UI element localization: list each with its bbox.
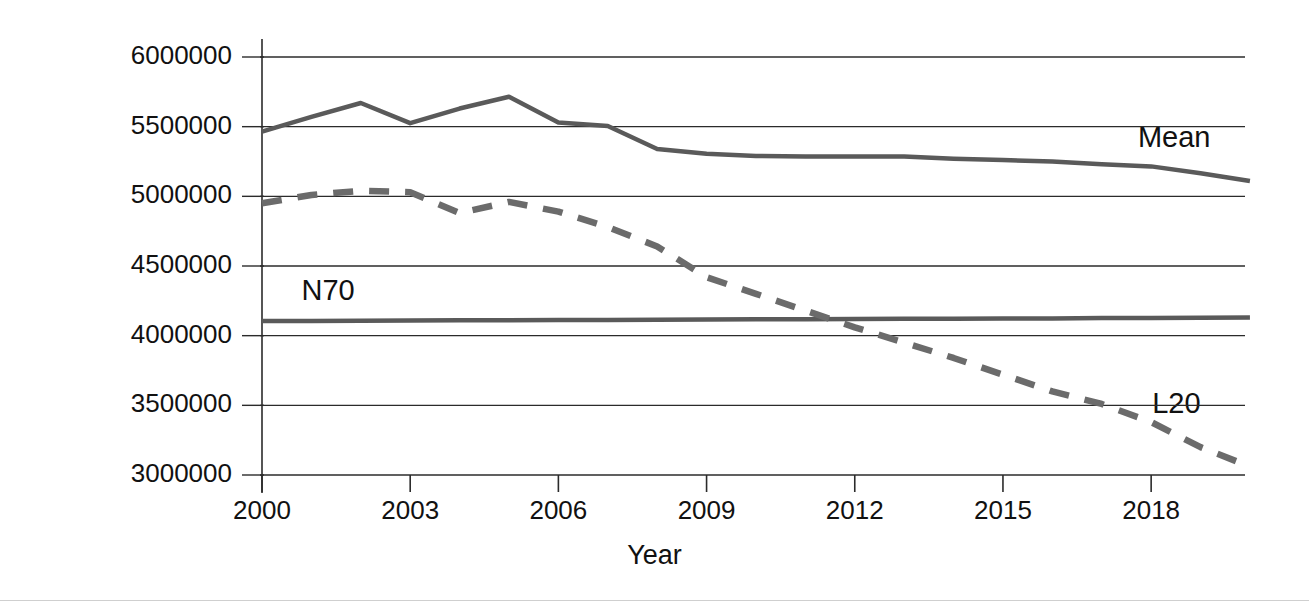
population-line-chart: Population Year 600000055000005000000450… [0, 0, 1309, 613]
gridlines [260, 57, 1245, 475]
series-line-mean [262, 97, 1250, 181]
series-line-n70 [262, 318, 1250, 321]
series-paths [262, 97, 1250, 467]
plot-area [0, 0, 1309, 613]
series-line-l20 [262, 191, 1250, 467]
bottom-divider [0, 600, 1309, 601]
axis-ticks [242, 57, 1151, 492]
